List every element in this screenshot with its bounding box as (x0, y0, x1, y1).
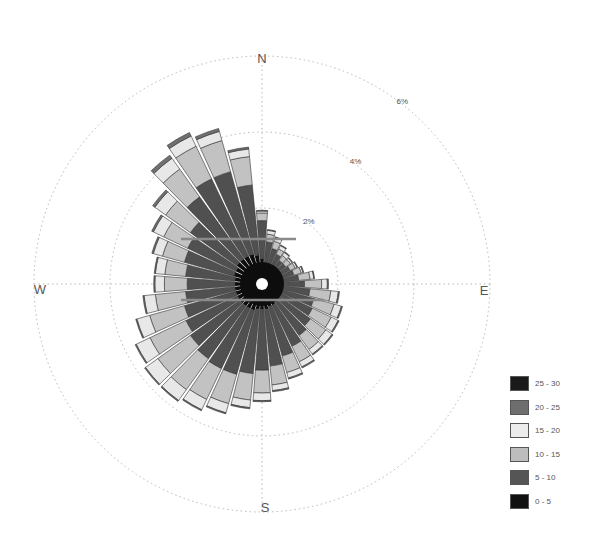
legend-item-0-5: 0 - 5 (510, 490, 560, 514)
legend-label: 20 - 25 (535, 403, 560, 412)
legend-item-10-15: 10 - 15 (510, 443, 560, 467)
center-hole (256, 278, 268, 290)
compass-east-label: E (480, 283, 489, 298)
wind-bar-segment (321, 279, 327, 289)
wind-bar-segment (256, 210, 267, 211)
wind-bar-segment (304, 279, 321, 288)
legend-swatch (510, 400, 529, 415)
legend-item-5-10: 5 - 10 (510, 466, 560, 490)
legend-label: 5 - 10 (535, 473, 555, 482)
wind-bar-segment (155, 276, 165, 292)
legend-item-25-30: 25 - 30 (510, 372, 560, 396)
ring-label: 2% (303, 217, 315, 226)
wind-bar-segment (257, 213, 268, 221)
ring-label: 4% (350, 157, 362, 166)
compass-south-label: S (261, 500, 270, 515)
legend-swatch (510, 376, 529, 391)
wind-bar-segment (254, 370, 271, 393)
wind-bar-segment (327, 279, 328, 289)
wind-bar-segment (270, 364, 287, 385)
legend-swatch (510, 423, 529, 438)
legend-label: 10 - 15 (535, 450, 560, 459)
legend-label: 0 - 5 (535, 497, 551, 506)
legend-swatch (510, 447, 529, 462)
ring-label: 6% (397, 97, 409, 106)
wind-bar-segment (164, 277, 187, 292)
legend-label: 25 - 30 (535, 379, 560, 388)
legend-label: 15 - 20 (535, 426, 560, 435)
legend-swatch (510, 470, 529, 485)
legend: 25 - 30 20 - 25 15 - 20 10 - 15 5 - 10 0… (510, 372, 560, 513)
wind-rose-bars (135, 128, 342, 413)
legend-item-15-20: 15 - 20 (510, 419, 560, 443)
wind-bar-segment (154, 276, 155, 293)
wind-bar-segment (253, 393, 271, 401)
legend-swatch (510, 494, 529, 509)
compass-west-label: W (34, 282, 47, 297)
legend-item-20-25: 20 - 25 (510, 396, 560, 420)
compass-north-label: N (257, 51, 266, 66)
wind-bar-segment (253, 400, 271, 401)
